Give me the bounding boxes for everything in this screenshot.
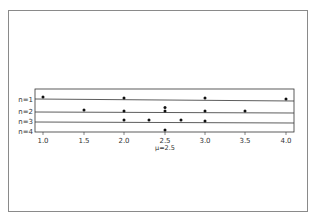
row-line-n1: [35, 99, 294, 101]
point-n2: [83, 109, 86, 112]
dot-plot: n=1 n=2 n=3 n=4 1.0 1.5 2.0 2.5 3.0 3.5 …: [0, 0, 315, 220]
point-n1: [285, 98, 288, 101]
x-ticks: [43, 132, 286, 135]
point-n4: [164, 129, 167, 132]
point-n3: [123, 119, 126, 122]
point-n1: [204, 97, 207, 100]
point-n2: [123, 110, 126, 113]
row-label-n1: n=1: [18, 96, 33, 104]
tick-label-3.0: 3.0: [199, 137, 210, 145]
row-label-n2: n=2: [18, 108, 33, 116]
point-n3: [180, 119, 183, 122]
row-label-n4: n=4: [18, 128, 33, 136]
tick-label-4.0: 4.0: [280, 137, 291, 145]
tick-label-1.5: 1.5: [78, 137, 89, 145]
point-n2: [164, 110, 167, 113]
tick-label-3.5: 3.5: [239, 137, 250, 145]
row-label-n3: n=3: [18, 118, 33, 126]
point-n2: [204, 110, 207, 113]
point-n2: [244, 110, 247, 113]
point-n1: [123, 97, 126, 100]
tick-label-2.0: 2.0: [118, 137, 129, 145]
point-n3: [204, 120, 207, 123]
point-n2: [164, 106, 167, 109]
row-line-n3: [35, 122, 294, 123]
point-n3: [148, 119, 151, 122]
mean-annotation: μ=2.5: [155, 144, 175, 152]
point-n1: [42, 96, 45, 99]
tick-label-1.0: 1.0: [37, 137, 48, 145]
